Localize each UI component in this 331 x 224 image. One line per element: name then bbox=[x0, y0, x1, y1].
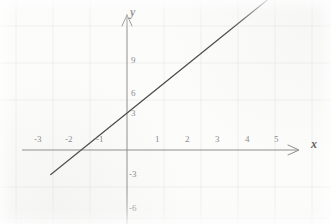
x-axis-label: x bbox=[311, 137, 317, 152]
x-tick-label-3: 3 bbox=[215, 134, 220, 144]
y-tick-label-9: 9 bbox=[131, 55, 136, 65]
coordinate-plane-graph: -3 -2 -1 1 2 3 4 5 9 6 3 -3 -6 x y bbox=[0, 0, 331, 224]
plot-area bbox=[0, 0, 331, 224]
y-tick-label--6: -6 bbox=[129, 203, 137, 213]
y-tick-label-3: 3 bbox=[131, 108, 136, 118]
x-tick-label-2: 2 bbox=[185, 134, 190, 144]
x-tick-label--3: -3 bbox=[34, 134, 42, 144]
x-tick-label-5: 5 bbox=[274, 134, 279, 144]
x-tick-label-4: 4 bbox=[245, 134, 250, 144]
x-tick-label--1: -1 bbox=[96, 134, 104, 144]
x-tick-label--2: -2 bbox=[65, 134, 73, 144]
x-tick-label-1: 1 bbox=[155, 134, 160, 144]
y-axis-label: y bbox=[130, 5, 135, 20]
y-tick-label--3: -3 bbox=[129, 169, 137, 179]
grid-lines bbox=[0, 0, 331, 224]
y-tick-label-6: 6 bbox=[131, 88, 136, 98]
